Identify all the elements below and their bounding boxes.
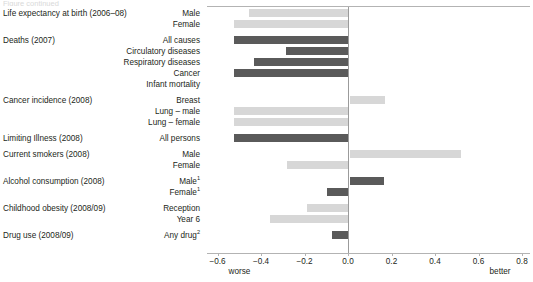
chart-row: Female1: [0, 187, 533, 198]
bar: [234, 107, 348, 115]
series-label: All causes: [100, 35, 200, 46]
series-label: All persons: [100, 133, 200, 144]
x-axis-tick-label: 0.2: [372, 256, 412, 267]
series-label: Male: [100, 149, 200, 160]
series-label: Respiratory diseases: [100, 57, 200, 68]
series-label: Year 6: [100, 214, 200, 225]
bar: [234, 20, 348, 28]
chart-row: Female: [0, 19, 533, 30]
bar: [307, 204, 348, 212]
bar: [254, 58, 348, 66]
x-axis-line: [207, 253, 530, 254]
chart-row: Lung – male: [0, 106, 533, 117]
series-label: Circulatory diseases: [100, 46, 200, 57]
clipped-top-text: Figure continued: [3, 0, 193, 6]
bar: [327, 188, 348, 196]
bar: [234, 69, 348, 77]
series-label: Female: [100, 160, 200, 171]
chart-row: Life expectancy at birth (2006–08)Male: [0, 8, 533, 19]
bar: [234, 118, 348, 126]
series-label: Reception: [100, 203, 200, 214]
chart-row: Infant mortality: [0, 79, 533, 90]
bar: [350, 177, 384, 185]
x-axis-tick-label: 0.0: [328, 256, 368, 267]
chart-row: Circulatory diseases: [0, 46, 533, 57]
series-label: Male1: [100, 176, 200, 187]
better-direction-label: better: [470, 266, 530, 277]
plot-top-rule: [207, 6, 530, 7]
bar: [332, 231, 348, 239]
chart-row: Cancer: [0, 68, 533, 79]
chart-row: Limiting Illness (2008)All persons: [0, 133, 533, 144]
chart-row: Current smokers (2008)Male: [0, 149, 533, 160]
series-label: Male: [100, 8, 200, 19]
chart-row: Cancer incidence (2008)Breast: [0, 95, 533, 106]
series-label: Infant mortality: [100, 79, 200, 90]
bar: [234, 134, 348, 142]
worse-direction-label: worse: [210, 266, 270, 277]
bar: [287, 161, 348, 169]
series-label: Lung – male: [100, 106, 200, 117]
footnote-marker: 1: [197, 175, 200, 181]
bar: [350, 96, 385, 104]
chart-row: Alcohol consumption (2008)Male1: [0, 176, 533, 187]
chart-row: Deaths (2007)All causes: [0, 35, 533, 46]
chart-row: Lung – female: [0, 117, 533, 128]
footnote-marker: 1: [197, 186, 200, 192]
series-label: Any drug2: [100, 230, 200, 241]
health-indicator-bar-chart: Figure continued Life expectancy at birt…: [0, 0, 533, 282]
series-label: Female: [100, 19, 200, 30]
bar: [249, 9, 348, 17]
chart-row: Respiratory diseases: [0, 57, 533, 68]
series-label: Breast: [100, 95, 200, 106]
chart-row: Female: [0, 160, 533, 171]
footnote-marker: 2: [197, 229, 200, 235]
series-label: Female1: [100, 187, 200, 198]
chart-row: Year 6: [0, 214, 533, 225]
chart-row: Childhood obesity (2008/09)Reception: [0, 203, 533, 214]
x-axis-tick-label: −0.2: [285, 256, 325, 267]
chart-row: Drug use (2008/09)Any drug2: [0, 230, 533, 241]
bar: [350, 150, 461, 158]
bar: [286, 47, 348, 55]
series-label: Lung – female: [100, 117, 200, 128]
series-label: Cancer: [100, 68, 200, 79]
bar: [234, 36, 348, 44]
bar: [270, 215, 348, 223]
x-axis-tick-label: 0.4: [415, 256, 455, 267]
